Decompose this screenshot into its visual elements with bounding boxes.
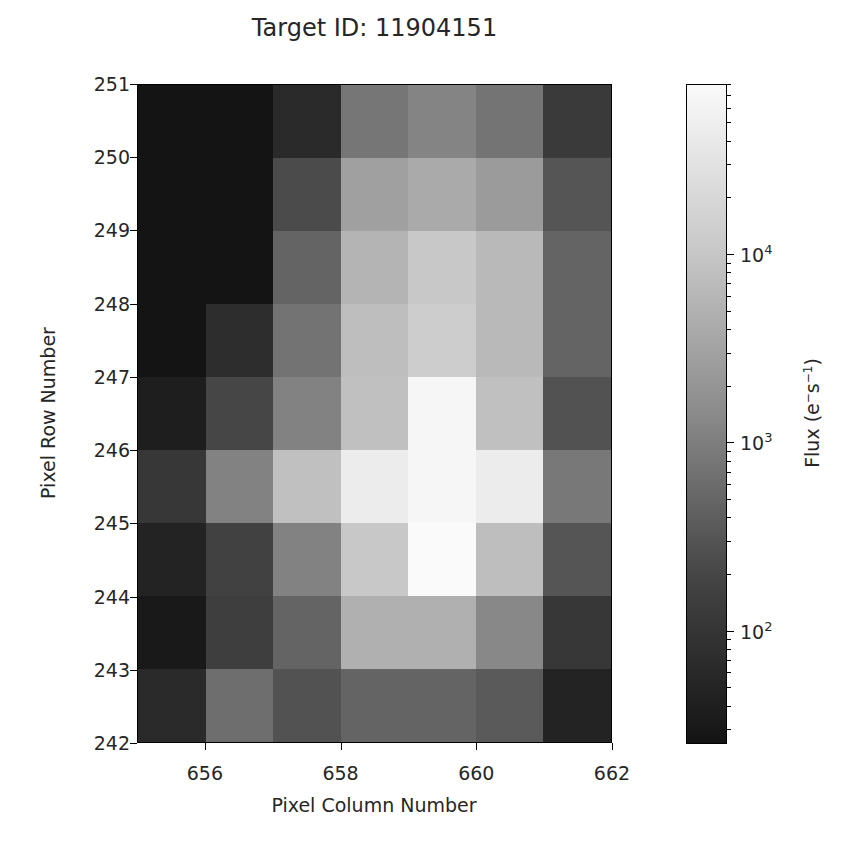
y-tick-label: 247 [94,366,130,388]
heatmap-cell [408,304,476,377]
heatmap-cell [273,596,341,669]
y-tick-mark [130,230,137,231]
x-tick-label: 656 [187,762,223,784]
colorbar-tick-mark [727,517,731,518]
heatmap-cell [408,669,476,742]
colorbar-tick-mark [727,672,731,673]
colorbar-tick-mark [727,141,731,142]
heatmap-cell [138,523,206,596]
heatmap-cell [543,304,611,377]
x-tick-label: 658 [322,762,358,784]
heatmap-cell [543,669,611,742]
colorbar-tick-mark [727,451,731,452]
y-tick-mark [130,377,137,378]
y-tick-mark [130,597,137,598]
y-tick-mark [130,743,137,744]
heatmap-cell [206,523,274,596]
y-tick-mark [130,157,137,158]
y-tick-mark [130,450,137,451]
colorbar-tick-mark [727,353,731,354]
y-tick-mark [130,670,137,671]
x-axis-label: Pixel Column Number [271,794,476,816]
heatmap-cell [543,158,611,231]
y-axis-label: Pixel Row Number [37,327,59,499]
colorbar-tick-mark [727,122,731,123]
colorbar-tick-mark [727,108,731,109]
heatmap-cell [408,523,476,596]
colorbar [686,84,727,744]
heatmap-cell [273,450,341,523]
heatmap-cell [408,377,476,450]
colorbar-tick-mark [727,263,731,264]
colorbar-tick-mark [727,164,731,165]
colorbar-tick-mark [727,296,731,297]
heatmap-cell [341,85,409,158]
colorbar-tick-mark [727,95,731,96]
heatmap-cell [543,231,611,304]
heatmap-cell [138,158,206,231]
y-tick-label: 248 [94,293,130,315]
colorbar-tick-mark [727,442,734,443]
heatmap-cell [476,377,544,450]
heatmap-cell [476,596,544,669]
heatmap-plot-area [137,84,612,743]
y-tick-label: 245 [94,512,130,534]
heatmap-cell [206,158,274,231]
heatmap-cell [206,85,274,158]
heatmap-cell [273,158,341,231]
colorbar-tick-mark [727,499,731,500]
colorbar-tick-label: 102 [740,619,772,642]
colorbar-tick-mark [727,574,731,575]
colorbar-tick-mark [727,84,731,85]
colorbar-tick-mark [727,311,731,312]
heatmap-cell [408,596,476,669]
heatmap-cell [341,669,409,742]
chart-title: Target ID: 11904151 [137,14,612,42]
colorbar-tick-label: 104 [740,242,772,265]
y-tick-label: 250 [94,146,130,168]
heatmap-cell [206,596,274,669]
colorbar-tick-mark [727,631,734,632]
colorbar-tick-mark [727,729,731,730]
heatmap-cell [543,596,611,669]
heatmap-cell [476,450,544,523]
colorbar-label: Flux (e−s−1) [801,358,823,468]
heatmap-cell [476,231,544,304]
colorbar-tick-mark [727,541,731,542]
colorbar-tick-mark [727,461,731,462]
heatmap-cell [341,596,409,669]
colorbar-tick-mark [727,649,731,650]
heatmap-cell [408,231,476,304]
heatmap-cell [138,596,206,669]
colorbar-tick-mark [727,329,731,330]
heatmap-cell [206,450,274,523]
heatmap-cell [138,450,206,523]
heatmap-cell [341,158,409,231]
heatmap-cell [138,231,206,304]
colorbar-tick-mark [727,254,734,255]
colorbar-tick-mark [727,706,731,707]
y-tick-label: 243 [94,659,130,681]
heatmap-cell [273,669,341,742]
colorbar-tick-mark [727,283,731,284]
heatmap-cell [273,304,341,377]
heatmap-cell [206,304,274,377]
heatmap-cell [341,523,409,596]
y-tick-label: 242 [94,732,130,754]
colorbar-tick-mark [727,660,731,661]
heatmap-cell [273,523,341,596]
y-tick-label: 244 [94,586,130,608]
y-tick-label: 246 [94,439,130,461]
heatmap-cell [341,377,409,450]
heatmap-cell [138,304,206,377]
heatmap-cell [206,669,274,742]
heatmap-cell [341,450,409,523]
x-tick-mark [476,743,477,750]
y-tick-label: 251 [94,73,130,95]
heatmap-cell [273,85,341,158]
colorbar-tick-mark [727,639,731,640]
colorbar-tick-mark [727,484,731,485]
x-tick-mark [341,743,342,750]
colorbar-tick-mark [727,472,731,473]
heatmap-cell [543,523,611,596]
